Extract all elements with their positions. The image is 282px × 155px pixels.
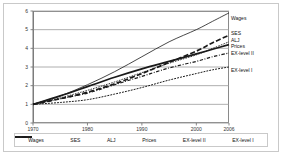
y-tick-label-1: 1 [16, 102, 28, 107]
legend-label: ALJ [107, 138, 116, 143]
y-tick-label-0: 0 [16, 121, 28, 126]
legend-label: Prices [142, 138, 156, 143]
x-tick-label-1990: 1990 [127, 127, 157, 132]
series-line-prices [33, 45, 229, 105]
y-tick-label-6: 6 [16, 9, 28, 14]
legend-item-alj[interactable]: ALJ [107, 138, 116, 143]
series-label-ex-level-i: EX-level I [231, 68, 252, 73]
series-label-alj: ALJ [231, 38, 240, 43]
y-tick-label-4: 4 [16, 46, 28, 51]
series-label-ses: SES [231, 31, 241, 36]
x-tick-label-1980: 1980 [72, 127, 102, 132]
series-label-wages: Wages [231, 16, 246, 21]
y-tick-label-5: 5 [16, 27, 28, 32]
chart-legend: WagesSESALJPricesEX-level IIEX-level I [14, 133, 268, 147]
series-label-ex-level-ii: EX-level II [231, 51, 254, 56]
x-tick-label-2006: 2006 [214, 127, 244, 132]
legend-label: EX-level II [183, 138, 206, 143]
x-tick-label-2000: 2000 [181, 127, 211, 132]
legend-item-ex-level-ii[interactable]: EX-level II [183, 138, 206, 143]
y-tick-label-2: 2 [16, 83, 28, 88]
legend-key-ex-level-i [15, 134, 32, 140]
legend-item-ex-level-i[interactable]: EX-level I [232, 138, 253, 143]
series-line-ses [33, 35, 229, 104]
legend-item-prices[interactable]: Prices [142, 138, 156, 143]
legend-label: EX-level I [232, 138, 253, 143]
x-tick-label-1970: 1970 [18, 127, 48, 132]
y-tick-label-3: 3 [16, 65, 28, 70]
chart-figure: 0123456 19701980199020002006 WagesSESALJ… [0, 0, 282, 155]
series-label-prices: Prices [231, 44, 245, 49]
legend-item-ses[interactable]: SES [70, 138, 80, 143]
legend-label: SES [70, 138, 80, 143]
